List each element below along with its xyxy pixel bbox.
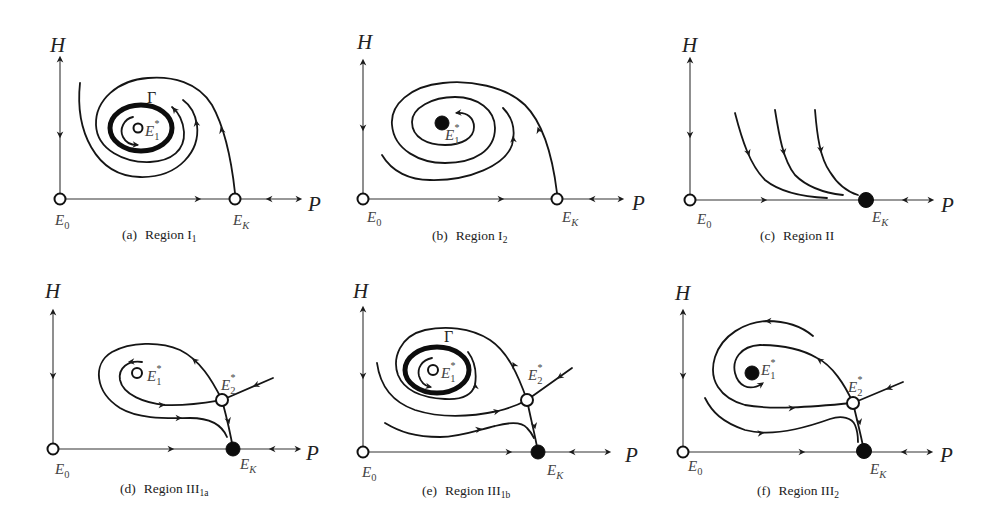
panel-c: H P E0 EK (c)Region II — [681, 33, 954, 243]
caption-d: (d)Region III1a — [120, 481, 209, 498]
p-axis-label: P — [624, 443, 638, 467]
equilibrium-ek — [857, 444, 872, 459]
ek-label: EK — [871, 209, 889, 228]
e0-label: E0 — [687, 458, 702, 477]
h-axis-label: H — [44, 279, 62, 303]
panel-a: H P Γ E1* E0 EK (a)Region I1 — [49, 33, 321, 244]
trajectory-loop — [99, 344, 227, 437]
equilibrium-e0 — [678, 447, 689, 458]
h-axis-label: H — [674, 281, 692, 305]
caption-e: (e)Region III1b — [422, 483, 511, 500]
caption-f: (f)Region III2 — [757, 483, 839, 500]
caption-a: (a)Region I1 — [122, 227, 197, 244]
h-axis-label: H — [352, 279, 370, 303]
ek-label: EK — [561, 209, 579, 228]
e2-label: E2* — [847, 374, 862, 398]
arrow-up-right-icon — [757, 380, 766, 389]
equilibrium-e0 — [685, 195, 696, 206]
e0-label: E0 — [54, 212, 69, 231]
unstable-manifold-to-ek — [527, 400, 538, 452]
equilibrium-e1 — [132, 368, 142, 378]
arrow-down-left-icon — [885, 384, 894, 393]
equilibrium-ek — [230, 194, 241, 205]
ek-label: EK — [239, 456, 257, 475]
e0-label: E0 — [361, 464, 376, 483]
ek-label: EK — [232, 212, 250, 231]
e0-label: E0 — [54, 461, 69, 480]
e1-label: E1* — [760, 357, 775, 381]
e0-label: E0 — [366, 209, 381, 228]
e0-label: E0 — [696, 211, 711, 230]
e2-label: E2* — [527, 362, 542, 386]
equilibrium-e0 — [48, 444, 59, 455]
equilibrium-e1 — [745, 366, 759, 380]
p-axis-label: P — [631, 191, 645, 215]
trajectory-2 — [775, 110, 843, 195]
phase-portrait-figure: H P Γ E1* E0 EK (a)Region I1 H P — [0, 0, 997, 524]
trajectory-from-ek — [96, 78, 235, 193]
arrow-up-icon — [472, 383, 479, 390]
h-axis-label: H — [356, 30, 374, 54]
equilibrium-e2 — [847, 397, 859, 409]
gamma-label: Γ — [147, 89, 156, 106]
equilibrium-e1 — [428, 365, 438, 375]
caption-b: (b)Region I2 — [432, 228, 508, 245]
equilibrium-ek — [552, 194, 563, 205]
e1-label: E1* — [144, 118, 159, 142]
p-axis-label: P — [940, 193, 954, 217]
h-axis-label: H — [49, 33, 67, 57]
equilibrium-e2 — [216, 394, 228, 406]
caption-c: (c)Region II — [760, 228, 835, 243]
equilibrium-ek — [859, 193, 874, 208]
panel-b: H P E1* E0 EK (b)Region I2 — [356, 30, 645, 245]
panel-f: H P E1* E2* E0 EK (f)Region III2 — [674, 281, 953, 500]
equilibrium-e0 — [358, 194, 369, 205]
p-axis-label: P — [307, 192, 321, 216]
equilibrium-e0 — [55, 194, 66, 205]
p-axis-label: P — [939, 443, 953, 467]
arrow-down-left-icon — [252, 381, 261, 390]
trajectory-from-ek — [392, 82, 557, 193]
equilibrium-ek — [226, 442, 240, 456]
gamma-label: Γ — [444, 328, 453, 345]
panel-e: H P Γ E1* E2* E0 EK (e)Region III1b — [352, 279, 638, 500]
h-axis-label: H — [681, 33, 699, 57]
trajectory-lower-2 — [385, 423, 534, 438]
trajectory-3 — [815, 110, 858, 195]
e1-label: E1* — [146, 363, 161, 387]
p-axis-label: P — [305, 441, 319, 465]
e2-label: E2* — [220, 372, 235, 396]
ek-label: EK — [869, 461, 887, 480]
panel-d: H P E1* E2* E0 EK (d)Region III1a — [44, 279, 319, 498]
equilibrium-e0 — [358, 447, 369, 458]
equilibrium-ek — [531, 445, 545, 459]
ek-label: EK — [546, 462, 564, 481]
equilibrium-e2 — [521, 394, 533, 406]
equilibrium-e1 — [134, 124, 143, 133]
unstable-manifold-to-ek — [222, 400, 233, 449]
e1-label: E1* — [440, 360, 455, 384]
